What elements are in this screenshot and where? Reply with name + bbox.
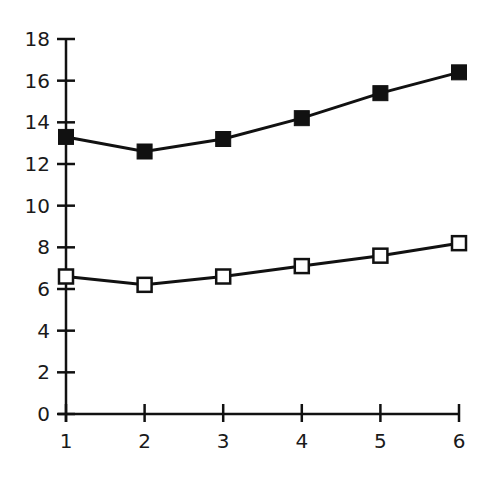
x-tick-label: 4	[295, 429, 308, 453]
x-tick-label: 2	[138, 429, 151, 453]
y-tick-label: 0	[37, 402, 50, 426]
y-tick-label: 12	[25, 152, 50, 176]
x-tick-label: 6	[453, 429, 466, 453]
y-tick-label: 14	[25, 110, 50, 134]
open-square-marker	[216, 270, 230, 284]
open-square-marker	[138, 278, 152, 292]
y-tick-label: 2	[37, 360, 50, 384]
open-square-marker	[373, 249, 387, 263]
y-tick-label: 18	[25, 27, 50, 51]
series-line	[66, 72, 459, 151]
series-line	[66, 243, 459, 285]
x-tick-label: 1	[60, 429, 73, 453]
y-tick-label: 10	[25, 194, 50, 218]
filled-square-marker	[216, 132, 231, 147]
filled-square-marker	[59, 129, 74, 144]
y-tick-label: 8	[37, 235, 50, 259]
series-filled-squares	[59, 65, 467, 159]
series-open-squares	[59, 236, 466, 292]
open-square-marker	[59, 270, 73, 284]
filled-square-marker	[294, 111, 309, 126]
series-layer	[59, 65, 467, 292]
open-square-marker	[295, 259, 309, 273]
x-tick-label: 5	[374, 429, 387, 453]
y-tick-label: 6	[37, 277, 50, 301]
axes: 024681012141618123456	[25, 27, 466, 453]
filled-square-marker	[373, 86, 388, 101]
filled-square-marker	[452, 65, 467, 80]
line-chart: 024681012141618123456	[0, 0, 497, 478]
filled-square-marker	[137, 144, 152, 159]
open-square-marker	[452, 236, 466, 250]
y-tick-label: 4	[37, 319, 50, 343]
x-tick-label: 3	[217, 429, 230, 453]
y-tick-label: 16	[25, 69, 50, 93]
